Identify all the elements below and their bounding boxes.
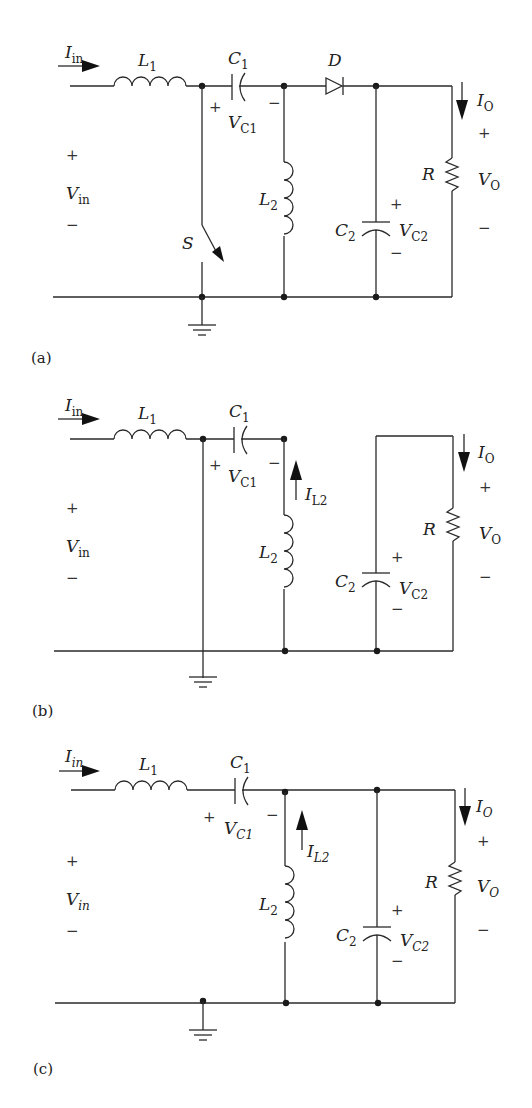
svg-text:−: −	[266, 806, 279, 824]
svg-text:+: +	[203, 808, 216, 826]
il2-label: IL2	[304, 484, 327, 508]
ground-icon	[189, 1001, 217, 1040]
r-label: R	[421, 164, 435, 184]
io-label: IO	[477, 442, 495, 466]
svg-text:+: +	[391, 548, 404, 566]
diode-icon	[326, 78, 342, 94]
svg-text:−: −	[66, 569, 79, 587]
l2-label: L2	[258, 542, 278, 566]
svg-text:−: −	[268, 454, 281, 472]
resistor-r-icon	[449, 862, 461, 895]
svg-text:−: −	[66, 216, 79, 234]
output-current-arrow-icon	[459, 806, 471, 826]
resistor-r-icon	[446, 158, 458, 191]
il2-label: IL2	[306, 841, 329, 865]
vc1-plus: +	[209, 98, 222, 116]
ground-icon	[188, 297, 216, 335]
inductor-l1-icon	[114, 430, 186, 439]
svg-text:−: −	[391, 600, 404, 618]
input-current-arrow-icon	[82, 413, 100, 425]
svg-text:+: +	[391, 901, 404, 919]
c2-label: C2	[335, 571, 356, 595]
vc1-label: VC1	[228, 112, 257, 136]
c2-label: C2	[336, 925, 357, 949]
vin-label: Vin	[66, 183, 90, 207]
il2-current-arrow-icon	[290, 460, 302, 480]
inductor-l2-icon	[285, 866, 294, 938]
panel-a-circuit: Iin L1 C1 + − VC1 D S L2	[31, 42, 500, 367]
panel-a-caption: (a)	[31, 349, 52, 367]
svg-text:−: −	[477, 921, 490, 939]
input-current-arrow-icon	[82, 765, 100, 777]
c1-label: C1	[229, 401, 250, 425]
resistor-r-icon	[447, 508, 459, 541]
panel-b-circuit: Iin L1 C1 + − VC1 IL2 L2 C2 + VC2 −	[32, 395, 501, 720]
svg-text:+: +	[66, 146, 79, 164]
vo-label: VO	[479, 523, 501, 547]
svg-text:+: +	[477, 832, 490, 850]
iin-label: Iin	[64, 42, 84, 66]
io-label: IO	[475, 796, 493, 820]
svg-text:+: +	[66, 499, 79, 517]
svg-text:−: −	[479, 568, 492, 586]
panel-b-caption: (b)	[32, 702, 53, 720]
svg-text:−: −	[391, 952, 404, 970]
l1-label: L1	[137, 403, 157, 427]
svg-text:−: −	[66, 922, 79, 940]
vc2-label: VC2	[399, 578, 428, 602]
vin-label: Vin	[66, 889, 90, 913]
svg-text:+: +	[478, 124, 491, 142]
c2-label: C2	[335, 220, 356, 244]
svg-text:+: +	[390, 195, 403, 213]
vc1-label: VC1	[228, 466, 257, 490]
il2-current-arrow-icon	[296, 810, 308, 830]
inductor-l1-icon	[114, 77, 186, 86]
svg-text:+: +	[66, 852, 79, 870]
circuit-figure: Iin L1 C1 + − VC1 D S L2	[0, 0, 532, 1108]
vc1-label: VC1	[224, 818, 253, 842]
ground-icon	[189, 677, 217, 687]
iin-label: Iin	[64, 746, 83, 770]
l2-label: L2	[258, 894, 278, 918]
panel-c-caption: (c)	[33, 1060, 53, 1078]
vc1-minus: −	[268, 94, 281, 112]
l2-label: L2	[258, 189, 278, 213]
c1-label: C1	[230, 752, 251, 776]
vin-label: Vin	[66, 536, 90, 560]
vc2-label: VC2	[400, 930, 429, 954]
iin-label: Iin	[64, 395, 84, 419]
svg-text:−: −	[390, 244, 403, 262]
inductor-l2-icon	[284, 515, 293, 587]
io-label: IO	[476, 90, 494, 114]
c1-label: C1	[228, 48, 249, 72]
inductor-l1-icon	[115, 781, 187, 790]
inductor-l2-icon	[284, 162, 293, 234]
vc2-label: VC2	[399, 220, 428, 244]
svg-text:+: +	[209, 456, 222, 474]
r-label: R	[422, 519, 436, 539]
panel-c-circuit: Iin L1 C1 + − VC1 IL2 L2 C2 + VC2 −	[33, 746, 499, 1078]
l1-label: L1	[137, 50, 157, 74]
s-label: S	[182, 233, 194, 253]
svg-text:+: +	[479, 478, 492, 496]
svg-text:−: −	[478, 219, 491, 237]
d-label: D	[327, 50, 342, 70]
vo-label: VO	[478, 169, 500, 193]
output-current-arrow-icon	[458, 452, 470, 472]
r-label: R	[424, 872, 438, 892]
input-current-arrow-icon	[82, 60, 100, 72]
vo-label: VO	[477, 876, 499, 900]
output-current-arrow-icon	[456, 100, 468, 120]
l1-label: L1	[138, 754, 158, 778]
